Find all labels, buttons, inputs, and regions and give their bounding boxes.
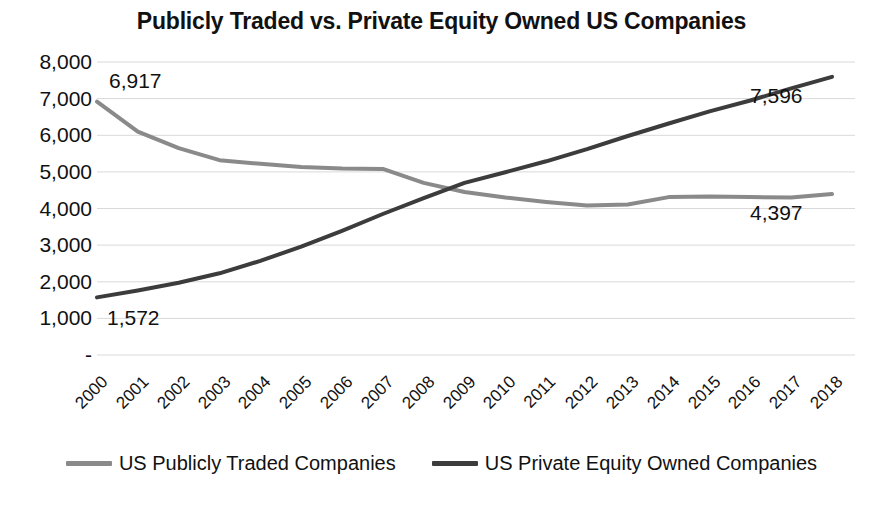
x-axis-tick-label: 2017 (766, 373, 805, 412)
x-axis-tick-label: 2001 (113, 373, 152, 412)
x-axis-tick-label: 2009 (440, 373, 479, 412)
x-axis-tick-label: 2008 (399, 373, 438, 412)
data-point-label: 7,596 (750, 85, 803, 106)
legend-item[interactable]: US Private Equity Owned Companies (432, 452, 817, 475)
legend-item[interactable]: US Publicly Traded Companies (66, 452, 396, 475)
data-point-label: 1,572 (107, 307, 160, 328)
chart-container: Publicly Traded vs. Private Equity Owned… (0, 0, 883, 511)
x-axis-tick-label: 2005 (276, 373, 315, 412)
x-axis-tick-label: 2018 (807, 373, 846, 412)
x-axis-tick-label: 2015 (685, 373, 724, 412)
x-axis-tick-label: 2016 (725, 373, 764, 412)
x-axis-tick-label: 2006 (317, 373, 356, 412)
x-axis-tick-label: 2003 (195, 373, 234, 412)
x-axis-tick-label: 2004 (235, 373, 274, 412)
x-axis-tick-label: 2014 (644, 373, 683, 412)
data-point-label: 6,917 (109, 70, 162, 91)
data-point-label: 4,397 (750, 202, 803, 223)
legend-label: US Private Equity Owned Companies (485, 452, 817, 475)
legend-line-swatch (432, 461, 478, 466)
x-axis-tick-label: 2012 (562, 373, 601, 412)
legend-label: US Publicly Traded Companies (119, 452, 396, 475)
x-axis-tick-label: 2002 (154, 373, 193, 412)
x-axis-tick-label: 2011 (521, 373, 559, 411)
x-axis-tick-label: 2013 (603, 373, 642, 412)
legend-line-swatch (66, 461, 112, 466)
chart-legend: US Publicly Traded CompaniesUS Private E… (0, 452, 883, 475)
x-axis-tick-label: 2007 (358, 373, 397, 412)
x-axis-tick-label: 2010 (480, 373, 519, 412)
x-axis-tick-label: 2000 (72, 373, 111, 412)
